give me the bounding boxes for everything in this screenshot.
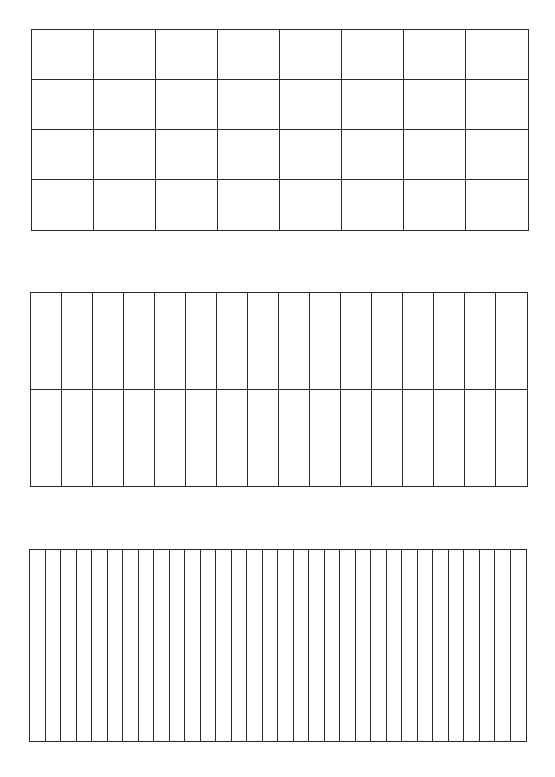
grid-cell <box>310 390 341 487</box>
grid-cell <box>434 293 465 390</box>
grid-cell <box>341 390 372 487</box>
grid-cell <box>94 80 156 130</box>
grid-cell <box>342 80 404 130</box>
grid-cell <box>496 293 527 390</box>
grid-cell <box>77 550 93 741</box>
grid-cell <box>186 390 217 487</box>
grid-cell <box>185 550 201 741</box>
grid-cell <box>218 30 280 80</box>
grid-cell <box>279 293 310 390</box>
grid-cell <box>31 293 62 390</box>
grid-cell <box>372 293 403 390</box>
grid-cell <box>94 130 156 180</box>
grid-cell <box>404 180 466 230</box>
grid-cell <box>309 550 325 741</box>
grid-cell <box>342 180 404 230</box>
grid-cell <box>94 180 156 230</box>
grid-cell <box>434 390 465 487</box>
grid-cell <box>32 180 94 230</box>
grid-cell <box>404 80 466 130</box>
grid-cell <box>263 550 279 741</box>
grid-cell <box>418 550 434 741</box>
grid-cell <box>404 30 466 80</box>
grid-cell <box>92 550 108 741</box>
grid-cell <box>279 390 310 487</box>
grid-16-by-2 <box>30 292 528 487</box>
grid-cell <box>123 550 139 741</box>
grid-cell <box>340 550 356 741</box>
grid-cell <box>466 180 528 230</box>
grid-32-by-1 <box>29 549 527 742</box>
grid-cell <box>280 130 342 180</box>
grid-cell <box>402 550 418 741</box>
grid-cell <box>403 390 434 487</box>
grid-cell <box>218 130 280 180</box>
grid-cell <box>62 390 93 487</box>
grid-cell <box>372 390 403 487</box>
grid-cell <box>93 293 124 390</box>
grid-cell <box>62 293 93 390</box>
grid-cell <box>139 550 155 741</box>
grid-cell <box>155 293 186 390</box>
grid-cell <box>371 550 387 741</box>
grid-cell <box>449 550 465 741</box>
grid-cell <box>356 550 372 741</box>
grid-cell <box>496 390 527 487</box>
grid-cell <box>156 30 218 80</box>
grid-cell <box>480 550 496 741</box>
grid-cell <box>495 550 511 741</box>
grid-cell <box>232 550 248 741</box>
grid-cell <box>278 550 294 741</box>
grid-cell <box>217 390 248 487</box>
grid-cell <box>466 130 528 180</box>
grid-cell <box>466 30 528 80</box>
grid-cell <box>94 30 156 80</box>
grid-cell <box>465 390 496 487</box>
grid-cell <box>61 550 77 741</box>
grid-cell <box>280 80 342 130</box>
grid-cell <box>248 390 279 487</box>
grid-cell <box>186 293 217 390</box>
grid-cell <box>31 390 62 487</box>
grid-cell <box>466 80 528 130</box>
grid-cell <box>170 550 186 741</box>
grid-cell <box>465 293 496 390</box>
grid-cell <box>294 550 310 741</box>
grid-cell <box>32 80 94 130</box>
grid-cell <box>216 550 232 741</box>
grid-cell <box>201 550 217 741</box>
grid-cell <box>30 550 46 741</box>
grid-cell <box>217 293 248 390</box>
grid-cell <box>310 293 341 390</box>
grid-cell <box>154 550 170 741</box>
grid-8-by-4 <box>31 29 529 231</box>
grid-cell <box>156 80 218 130</box>
grid-cell <box>404 130 466 180</box>
grid-cell <box>93 390 124 487</box>
grid-cell <box>124 390 155 487</box>
grid-cell <box>403 293 434 390</box>
grid-cell <box>433 550 449 741</box>
grid-cell <box>341 293 372 390</box>
grid-cell <box>280 180 342 230</box>
grid-cell <box>464 550 480 741</box>
grid-cell <box>155 390 186 487</box>
grid-cell <box>511 550 527 741</box>
grid-cell <box>387 550 403 741</box>
grid-cell <box>124 293 155 390</box>
grid-cell <box>342 30 404 80</box>
grid-cell <box>325 550 341 741</box>
grid-cell <box>32 130 94 180</box>
grid-cell <box>156 130 218 180</box>
grid-cell <box>218 80 280 130</box>
grid-cell <box>218 180 280 230</box>
grid-cell <box>247 550 263 741</box>
grid-cell <box>32 30 94 80</box>
grid-cell <box>46 550 62 741</box>
grid-cell <box>156 180 218 230</box>
grid-cell <box>248 293 279 390</box>
grid-cell <box>108 550 124 741</box>
grid-cell <box>280 30 342 80</box>
grid-cell <box>342 130 404 180</box>
